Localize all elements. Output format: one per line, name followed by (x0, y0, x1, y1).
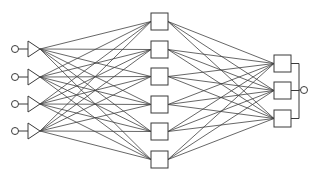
input-node-4 (12, 123, 41, 139)
connection-line (168, 64, 274, 132)
output-combiner (291, 64, 308, 119)
triangle-neuron-icon (28, 96, 40, 112)
connection-line (168, 50, 274, 64)
output-layer (274, 55, 291, 127)
triangle-neuron-icon (28, 41, 40, 57)
connection-line (168, 22, 274, 64)
connection-line (40, 50, 151, 78)
connection-line (168, 64, 274, 160)
hidden-output-connections (168, 22, 274, 160)
input-node-2 (12, 69, 41, 85)
hidden-layer (151, 13, 168, 168)
input-circle-icon (12, 46, 19, 53)
input-circle-icon (12, 101, 19, 108)
input-circle-icon (12, 74, 19, 81)
input-hidden-connections (40, 22, 151, 160)
output-node-2 (274, 82, 291, 99)
output-circle-icon (301, 87, 308, 94)
connection-line (40, 131, 151, 132)
connection-line (40, 77, 151, 105)
hidden-node-3 (151, 68, 168, 85)
connection-line (40, 22, 151, 50)
output-node-3 (274, 110, 291, 127)
hidden-node-1 (151, 13, 168, 30)
connection-line (168, 77, 274, 91)
hidden-node-2 (151, 41, 168, 58)
input-node-3 (12, 96, 41, 112)
input-node-1 (12, 41, 41, 57)
hidden-node-4 (151, 96, 168, 113)
input-layer (12, 41, 41, 139)
triangle-neuron-icon (28, 69, 40, 85)
neural-network-diagram (0, 0, 316, 184)
connection-line (40, 77, 151, 160)
hidden-node-6 (151, 151, 168, 168)
output-node-1 (274, 55, 291, 72)
connection-line (40, 131, 151, 160)
hidden-node-5 (151, 123, 168, 140)
connection-line (40, 22, 151, 105)
input-circle-icon (12, 128, 19, 135)
triangle-neuron-icon (28, 123, 40, 139)
